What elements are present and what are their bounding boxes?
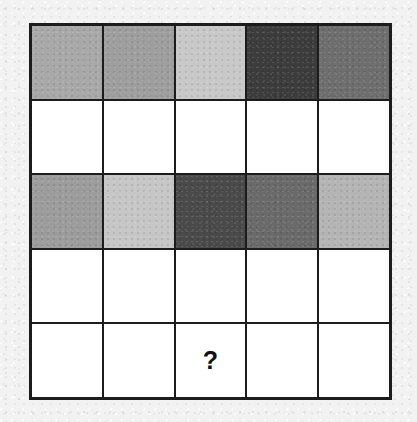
grid-cell-r2c5[interactable]: [319, 101, 389, 174]
puzzle-canvas: ?: [0, 0, 417, 422]
grid-cell-r1c5[interactable]: [319, 26, 389, 99]
grid-cell-r5c3[interactable]: ?: [176, 324, 246, 397]
grid-cell-r5c5[interactable]: [319, 324, 389, 397]
grid-cell-r3c3[interactable]: [176, 175, 246, 248]
grid-cell-r5c1[interactable]: [32, 324, 102, 397]
grid-cell-r2c4[interactable]: [247, 101, 317, 174]
matrix-grid: ?: [29, 23, 392, 400]
grid-cell-r3c2[interactable]: [104, 175, 174, 248]
grid-cell-r1c4[interactable]: [247, 26, 317, 99]
grid-cell-r4c3[interactable]: [176, 250, 246, 323]
grid-cell-r3c5[interactable]: [319, 175, 389, 248]
grid-cell-r1c1[interactable]: [32, 26, 102, 99]
grid-cell-r4c4[interactable]: [247, 250, 317, 323]
grid-cell-r1c3[interactable]: [176, 26, 246, 99]
grid-cell-r2c3[interactable]: [176, 101, 246, 174]
grid-cell-r4c5[interactable]: [319, 250, 389, 323]
grid-cell-r4c2[interactable]: [104, 250, 174, 323]
grid-cell-r3c4[interactable]: [247, 175, 317, 248]
grid-cell-r5c2[interactable]: [104, 324, 174, 397]
grid-cell-r4c1[interactable]: [32, 250, 102, 323]
grid-cell-r1c2[interactable]: [104, 26, 174, 99]
grid-cell-r3c1[interactable]: [32, 175, 102, 248]
grid-cell-r2c1[interactable]: [32, 101, 102, 174]
missing-cell-marker: ?: [203, 348, 218, 373]
grid-cell-r2c2[interactable]: [104, 101, 174, 174]
grid-cell-r5c4[interactable]: [247, 324, 317, 397]
